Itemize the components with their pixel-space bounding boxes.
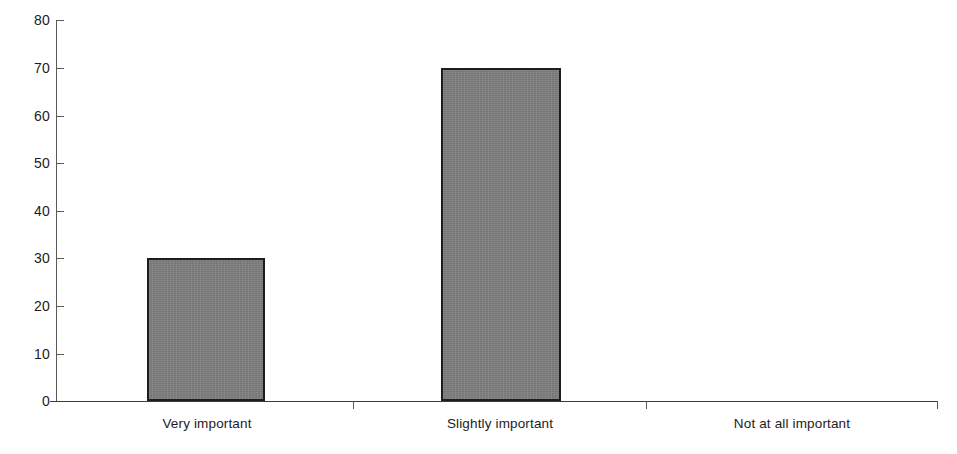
y-axis-label-30-wrap: 30 bbox=[0, 251, 50, 265]
y-axis-tick-20 bbox=[57, 306, 64, 307]
y-axis-tick-50 bbox=[57, 163, 64, 164]
y-axis-tick-40 bbox=[57, 211, 64, 212]
y-axis-label-80: 80 bbox=[4, 13, 50, 27]
x-axis-label-very-important: Very important bbox=[107, 416, 307, 432]
y-axis-label-20: 20 bbox=[4, 299, 50, 313]
y-axis-tick-60 bbox=[57, 116, 64, 117]
y-axis-label-10: 10 bbox=[4, 347, 50, 361]
y-axis-label-60: 60 bbox=[4, 109, 50, 123]
x-axis-label-not-at-all-important: Not at all important bbox=[692, 416, 892, 432]
y-axis-label-40-wrap: 40 bbox=[0, 204, 50, 218]
y-axis-label-10-wrap: 10 bbox=[0, 347, 50, 361]
x-axis-tick-1 bbox=[353, 401, 354, 409]
y-axis-label-80-wrap: 80 bbox=[0, 13, 50, 27]
y-axis-label-70-wrap: 70 bbox=[0, 61, 50, 75]
y-axis-tick-80 bbox=[57, 20, 64, 21]
y-axis-label-50: 50 bbox=[4, 156, 50, 170]
y-axis-label-0-wrap: 0 bbox=[0, 394, 50, 408]
y-axis-tick-70 bbox=[57, 68, 64, 69]
bar-slightly-important bbox=[441, 68, 561, 401]
y-axis-tick-30 bbox=[57, 258, 64, 259]
x-axis-label-slightly-important: Slightly important bbox=[400, 416, 600, 432]
x-axis-tick-2 bbox=[646, 401, 647, 409]
y-axis-label-20-wrap: 20 bbox=[0, 299, 50, 313]
x-axis-line bbox=[57, 401, 938, 402]
y-axis-tick-10 bbox=[57, 354, 64, 355]
bar-very-important bbox=[147, 258, 265, 401]
bar-chart: 80 70 60 50 40 30 20 10 0 Very important… bbox=[0, 0, 957, 454]
x-axis-tick-3 bbox=[937, 401, 938, 409]
y-axis-label-70: 70 bbox=[4, 61, 50, 75]
y-axis-label-0: 0 bbox=[4, 394, 50, 408]
y-axis-label-40: 40 bbox=[4, 204, 50, 218]
y-axis-label-30: 30 bbox=[4, 251, 50, 265]
y-axis-label-60-wrap: 60 bbox=[0, 109, 50, 123]
y-axis-label-50-wrap: 50 bbox=[0, 156, 50, 170]
